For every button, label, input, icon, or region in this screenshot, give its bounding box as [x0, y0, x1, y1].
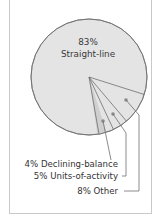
label-units-of-activity: 5% Units-of-activity [34, 171, 118, 181]
label-straight-line-name: Straight-line [61, 49, 115, 59]
label-other: 8% Other [77, 186, 118, 196]
label-declining-balance: 4% Declining-balance [25, 159, 118, 169]
label-straight-line-pct: 83% [78, 37, 98, 47]
pie-chart: 83% Straight-line 4% Declining-balance 5… [0, 0, 157, 222]
